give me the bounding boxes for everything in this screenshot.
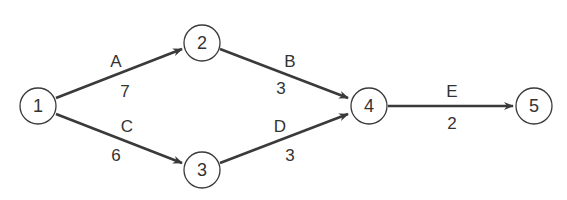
edge-d-duration: 3 <box>285 146 294 165</box>
edge-b-activity: B <box>284 52 295 71</box>
network-diagram: A 7 B 3 C 6 D 3 E 2 1 2 3 4 5 <box>0 0 567 200</box>
node-2-label: 2 <box>197 33 207 53</box>
node-4: 4 <box>351 88 387 124</box>
edge-b: B 3 <box>220 49 348 98</box>
node-3: 3 <box>184 152 220 188</box>
node-3-label: 3 <box>197 160 207 180</box>
edge-d: D 3 <box>220 114 348 165</box>
edge-a: A 7 <box>56 49 182 101</box>
node-5-label: 5 <box>529 96 539 116</box>
edge-a-activity: A <box>110 52 122 71</box>
edge-c-activity: C <box>121 117 133 136</box>
edge-d-activity: D <box>274 117 286 136</box>
edge-c-duration: 6 <box>111 146 120 165</box>
node-1: 1 <box>20 88 56 124</box>
edge-e-duration: 2 <box>447 114 456 133</box>
node-1-label: 1 <box>33 96 43 116</box>
node-4-label: 4 <box>364 96 374 116</box>
edge-c: C 6 <box>56 114 182 165</box>
node-2: 2 <box>184 25 220 61</box>
diagram-svg: A 7 B 3 C 6 D 3 E 2 1 2 3 4 5 <box>0 0 567 200</box>
edge-b-duration: 3 <box>276 79 285 98</box>
edge-a-duration: 7 <box>120 82 129 101</box>
node-5: 5 <box>516 88 552 124</box>
edge-e: E 2 <box>388 82 513 133</box>
edge-e-activity: E <box>446 82 457 101</box>
